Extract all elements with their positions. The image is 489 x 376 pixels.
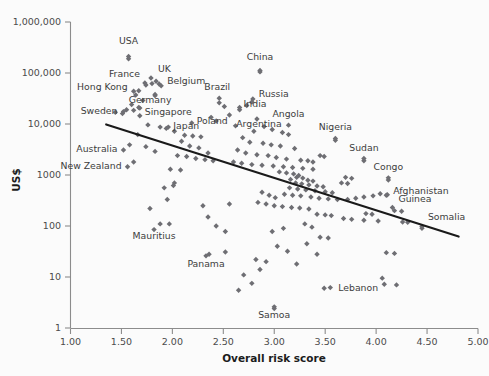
data-point — [175, 153, 180, 158]
risk-score-scatter-chart: 1,000,000100,00010,0001000100101 1.001.5… — [0, 0, 489, 376]
data-point — [190, 133, 195, 138]
data-point — [316, 196, 321, 201]
data-point — [361, 194, 366, 199]
data-point — [369, 212, 374, 217]
data-point — [399, 209, 404, 214]
point-label: Panama — [187, 258, 224, 269]
y-tick-label: 100,000 — [22, 67, 61, 78]
data-point — [317, 235, 322, 240]
point-label: Samoa — [258, 309, 290, 320]
y-tick-label: 10 — [49, 271, 61, 282]
data-point — [137, 113, 142, 118]
point-label: New Zealand — [60, 160, 121, 171]
x-tick-label: 4.00 — [366, 336, 387, 347]
chart-canvas: 1,000,000100,00010,0001000100101 1.001.5… — [0, 0, 489, 376]
data-point — [281, 226, 286, 231]
data-point — [302, 221, 307, 226]
data-point — [309, 224, 314, 229]
data-point — [378, 191, 383, 196]
data-point — [290, 165, 295, 170]
data-point — [284, 170, 289, 175]
data-point — [287, 185, 292, 190]
data-point — [321, 154, 326, 159]
data-point — [157, 124, 162, 129]
data-point — [370, 193, 375, 198]
point-label: Germany — [129, 94, 172, 105]
data-point — [275, 244, 280, 249]
data-point — [290, 193, 295, 198]
point-label: Nigeria — [319, 121, 352, 132]
data-point — [300, 166, 305, 171]
data-point — [259, 163, 264, 168]
data-point — [243, 150, 248, 155]
x-axis-group: 1.001.502.002.503.003.504.004.505.00 — [60, 329, 489, 348]
point-label: China — [247, 51, 274, 62]
data-point — [157, 221, 162, 226]
data-point — [235, 147, 240, 152]
data-point — [317, 153, 322, 158]
data-point — [284, 156, 289, 161]
data-point — [272, 203, 277, 208]
data-point — [314, 251, 319, 256]
data-point — [278, 143, 283, 148]
data-point — [167, 221, 172, 226]
point-label: Guinea — [398, 193, 431, 204]
data-point — [145, 122, 150, 127]
data-point — [270, 229, 275, 234]
data-point — [329, 213, 334, 218]
data-point-labeled — [286, 122, 291, 127]
data-point — [349, 217, 354, 222]
data-point — [310, 178, 315, 183]
data-point — [326, 196, 331, 201]
data-point — [205, 150, 210, 155]
data-point — [306, 206, 311, 211]
data-point — [288, 177, 293, 182]
data-point — [280, 204, 285, 209]
data-point — [382, 282, 387, 287]
trend-line — [106, 124, 458, 236]
point-label: France — [109, 68, 140, 79]
data-point — [223, 249, 228, 254]
point-label: Sweden — [81, 105, 118, 116]
data-point — [297, 205, 302, 210]
point-label: USA — [119, 35, 139, 46]
point-label: Lebanon — [338, 282, 378, 293]
data-point — [147, 206, 152, 211]
data-point — [168, 166, 173, 171]
data-point — [349, 176, 354, 181]
data-point — [131, 108, 136, 113]
data-point — [184, 154, 189, 159]
data-point — [143, 144, 148, 149]
data-point — [305, 158, 310, 163]
point-label: Singapore — [145, 106, 192, 117]
point-label: Hong Kong — [77, 81, 128, 92]
data-point — [205, 214, 210, 219]
data-point — [310, 166, 315, 171]
data-point — [353, 196, 358, 201]
data-point — [304, 241, 309, 246]
data-point — [202, 157, 207, 162]
data-point — [178, 167, 183, 172]
x-tick-label: 4.50 — [416, 336, 437, 347]
x-axis-ticks: 1.001.502.002.503.003.504.004.505.00 — [60, 329, 489, 348]
data-point — [198, 134, 203, 139]
data-point — [392, 251, 397, 256]
data-point-labeled — [217, 96, 222, 101]
data-point — [254, 152, 259, 157]
data-point — [314, 183, 319, 188]
y-axis-title: US$ — [10, 168, 22, 191]
data-point — [213, 223, 218, 228]
data-point — [271, 163, 276, 168]
data-point — [282, 192, 287, 197]
x-tick-label: 2.50 — [213, 336, 234, 347]
data-point — [179, 138, 184, 143]
data-point — [260, 141, 265, 146]
data-point — [308, 194, 313, 199]
point-label: Mauritius — [133, 230, 176, 241]
data-point — [223, 229, 228, 234]
data-point — [222, 104, 227, 109]
data-point — [277, 169, 282, 174]
point-labels-group: USAUKFranceBelgiumHong KongGermanySingap… — [60, 35, 465, 320]
data-point — [361, 217, 366, 222]
data-point — [295, 186, 300, 191]
